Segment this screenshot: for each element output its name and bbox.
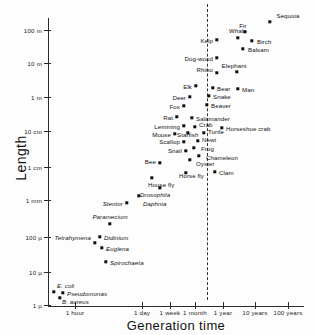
data-point-label: Beaver xyxy=(211,102,231,109)
data-point xyxy=(194,84,197,87)
data-point xyxy=(125,201,128,204)
data-point xyxy=(100,246,103,249)
data-point-label: Snail xyxy=(168,147,182,154)
data-point-label: Horseshoe crab xyxy=(226,125,270,132)
x-tick-mark xyxy=(288,302,289,309)
y-tick-label: 1 m xyxy=(31,94,42,101)
data-point-label: Newt xyxy=(202,136,216,143)
data-point xyxy=(182,140,185,143)
data-point xyxy=(236,36,239,39)
data-point-label: B. aureus xyxy=(62,298,89,305)
data-point-label: Fox xyxy=(170,103,180,110)
data-point-label: Sequoia xyxy=(276,12,299,19)
data-point-label: Clam xyxy=(219,169,234,176)
data-point xyxy=(213,170,216,173)
data-point-label: Whale xyxy=(229,27,247,34)
data-point-label: Rhino xyxy=(197,66,213,73)
x-tick-label: 1 week xyxy=(160,309,181,316)
data-point-label: Didinium xyxy=(104,234,129,241)
data-point-label: Paramecium xyxy=(92,213,127,220)
data-point xyxy=(250,39,253,42)
data-point xyxy=(236,87,239,90)
x-tick-label: 1 year xyxy=(214,309,232,316)
one-year-reference-line xyxy=(207,4,208,300)
data-point-label: Horse fly xyxy=(179,172,204,179)
y-tick-mark xyxy=(44,63,51,64)
data-point xyxy=(196,139,199,142)
data-point-label: Oyster xyxy=(196,160,215,167)
data-point xyxy=(188,158,191,161)
data-point xyxy=(211,86,214,89)
y-tick-label: 1 µ xyxy=(33,302,42,309)
data-point-label: Bee xyxy=(145,158,156,165)
data-point-label: Balsam xyxy=(248,46,269,53)
data-point xyxy=(158,186,161,189)
data-point xyxy=(52,290,55,293)
data-point-label: Starfish xyxy=(177,131,198,138)
x-tick-mark xyxy=(255,302,256,309)
data-point xyxy=(98,235,101,238)
data-point xyxy=(215,38,218,41)
data-point xyxy=(202,131,205,134)
data-point-label: E. coli xyxy=(57,282,74,289)
data-point xyxy=(182,104,185,107)
data-point-label: Kelp xyxy=(200,37,213,44)
data-point-label: Bear xyxy=(217,85,230,92)
x-tick-mark xyxy=(170,302,171,309)
data-point xyxy=(235,70,238,73)
data-point xyxy=(197,154,200,157)
data-point xyxy=(268,20,271,23)
generation-time-vs-length-scatter-chart: 100 m10 m1 m10 cm1 cm1 mm100 µ10 µ1 µ 1 … xyxy=(0,0,314,335)
data-point-label: Tetrahymena xyxy=(55,234,91,241)
data-point-label: Frog xyxy=(201,145,214,152)
data-point xyxy=(188,95,191,98)
data-point xyxy=(207,94,210,97)
y-tick-label: 100 µ xyxy=(25,234,42,241)
y-axis-line xyxy=(48,18,49,306)
data-point xyxy=(215,71,218,74)
x-tick-label: 100 years xyxy=(274,309,303,316)
x-tick-mark xyxy=(142,302,143,309)
data-point-label: Elephant xyxy=(222,62,247,69)
x-tick-mark xyxy=(195,302,196,309)
data-point-label: Mouse xyxy=(152,131,171,138)
data-point-label: Spirochaeta xyxy=(110,259,144,266)
data-point xyxy=(93,241,96,244)
data-point-label: Turtle xyxy=(208,128,224,135)
y-tick-label: 100 m xyxy=(24,27,42,34)
data-point-label: Rat xyxy=(163,114,173,121)
data-point xyxy=(137,194,140,197)
data-point-label: Daphnia xyxy=(143,200,166,207)
x-tick-mark xyxy=(223,302,224,309)
y-tick-mark xyxy=(44,167,51,168)
data-point-label: Elk xyxy=(183,83,192,90)
y-tick-mark xyxy=(44,237,51,238)
data-point-label: Stentor xyxy=(103,200,123,207)
data-point xyxy=(193,125,196,128)
data-point xyxy=(108,222,111,225)
x-axis-title: Generation time xyxy=(48,318,304,333)
data-point-label: Lemming xyxy=(154,123,180,130)
y-tick-label: 10 m xyxy=(27,60,42,67)
data-point-label: Birch xyxy=(257,38,271,45)
y-tick-mark xyxy=(44,305,51,306)
data-point-label: Crab xyxy=(199,121,213,128)
data-point xyxy=(61,291,64,294)
y-tick-mark xyxy=(44,30,51,31)
data-point-label: Dog-wood xyxy=(184,55,213,62)
data-point xyxy=(104,260,107,263)
y-axis-title: Length xyxy=(13,115,29,201)
x-tick-label: 1 hour xyxy=(66,309,85,316)
data-point xyxy=(175,115,178,118)
data-point-label: Scallop xyxy=(159,138,180,145)
data-point-label: Pseudomonas xyxy=(67,290,107,297)
data-point xyxy=(182,124,185,127)
y-tick-mark xyxy=(44,200,51,201)
data-point-label: Drosophila xyxy=(140,191,170,198)
x-tick-label: 1 month xyxy=(183,309,207,316)
y-tick-label: 10 µ xyxy=(29,269,42,276)
data-point-label: Snake xyxy=(213,93,231,100)
data-point xyxy=(205,103,208,106)
y-tick-label: 1 cm xyxy=(28,164,42,171)
x-tick-label: 10 years xyxy=(242,309,267,316)
